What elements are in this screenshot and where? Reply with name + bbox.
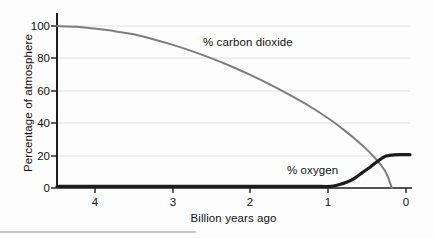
series-line-carbon-dioxide — [57, 26, 392, 188]
series-label-oxygen: % oxygen — [287, 164, 338, 176]
x-axis — [57, 188, 412, 193]
y-axis — [51, 13, 57, 188]
series-label-carbon-dioxide: % carbon dioxide — [203, 36, 293, 48]
series-line-oxygen — [57, 155, 410, 187]
x-axis-title: Billion years ago — [57, 212, 410, 224]
page-edge-rule — [0, 231, 196, 233]
chart-figure: Percentage of atmosphere 100 80 60 40 20… — [0, 0, 433, 238]
